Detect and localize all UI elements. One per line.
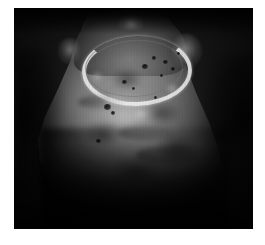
pit-11 (154, 96, 157, 99)
pit-9 (111, 111, 115, 115)
smudge-1 (110, 68, 144, 90)
glint-2 (126, 104, 156, 124)
endoscopic-photograph (14, 8, 253, 229)
pit-7 (132, 87, 135, 90)
pit-6 (122, 80, 127, 84)
page-canvas (0, 0, 265, 245)
pit-8 (104, 104, 111, 110)
pit-2 (152, 56, 156, 60)
pit-5 (160, 74, 163, 77)
bottom-vignette-fade (14, 143, 253, 229)
top-vignette-fade (14, 8, 253, 34)
figure-caption (14, 232, 253, 243)
pit-1 (142, 64, 148, 69)
